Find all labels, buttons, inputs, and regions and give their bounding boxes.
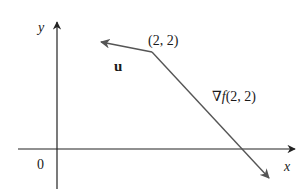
y-axis-label: y: [36, 20, 45, 35]
gradient-args: (2, 2): [226, 89, 257, 105]
gradient-vector-arrow: [152, 52, 269, 178]
nabla-symbol: ∇: [212, 89, 222, 104]
gradient-vector-label: ∇f(2, 2): [212, 89, 256, 105]
diagram-canvas: y x 0 (2, 2) u ∇f(2, 2): [0, 0, 298, 192]
u-vector-label: u: [114, 58, 122, 74]
origin-label: 0: [37, 157, 44, 172]
u-vector-arrow: [101, 42, 152, 52]
x-axis-label: x: [283, 159, 291, 174]
point-label: (2, 2): [148, 33, 179, 49]
